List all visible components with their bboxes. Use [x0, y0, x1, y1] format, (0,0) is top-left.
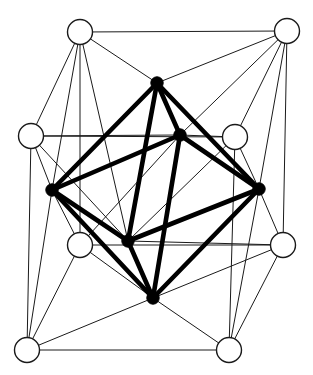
- diagram-canvas: [0, 0, 313, 375]
- graph-node[interactable]: [68, 233, 93, 258]
- graph-node[interactable]: [147, 292, 159, 304]
- graph-node[interactable]: [19, 124, 44, 149]
- graph-node[interactable]: [217, 338, 242, 363]
- graph-node[interactable]: [223, 125, 248, 150]
- graph-node[interactable]: [68, 20, 93, 45]
- graph-node[interactable]: [275, 19, 300, 44]
- graph-node[interactable]: [15, 338, 40, 363]
- graph-node[interactable]: [151, 77, 163, 89]
- graph-node[interactable]: [122, 235, 134, 247]
- graph-node[interactable]: [253, 183, 265, 195]
- graph-node[interactable]: [174, 129, 186, 141]
- graph-svg: [0, 0, 313, 375]
- graph-node[interactable]: [271, 233, 296, 258]
- graph-node[interactable]: [46, 184, 58, 196]
